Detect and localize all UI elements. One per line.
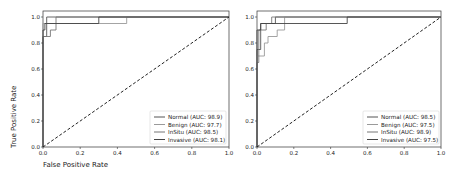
x-tick-label: 0.6 xyxy=(150,150,159,156)
roc-plot-left: 0.00.20.40.60.81.0 0.00.20.40.60.81.0 Fa… xyxy=(10,11,234,169)
legend-item: Invasive (AUC: 98.1) xyxy=(168,137,225,143)
x-axis-label: False Positive Rate xyxy=(43,161,108,169)
x-tick-label: 0.4 xyxy=(326,150,335,156)
x-tick-label: 1.0 xyxy=(437,150,446,156)
legend-item: Normal (AUC: 98.9) xyxy=(168,114,222,120)
y-tick-label: 1.0 xyxy=(245,14,254,20)
legend-item: Normal (AUC: 98.5) xyxy=(381,114,435,120)
x-tick-label: 0.0 xyxy=(39,150,48,156)
y-tick-label: 0.8 xyxy=(245,40,254,46)
y-axis-ticks: 0.00.20.40.60.81.0 xyxy=(31,14,43,150)
y-tick-label: 0.6 xyxy=(31,66,40,72)
legend-item: InSitu (AUC: 98.5) xyxy=(168,129,218,135)
x-tick-label: 0.0 xyxy=(253,150,262,156)
roc-plot-right: 0.00.20.40.60.81.0 0.00.20.40.60.81.0 No… xyxy=(245,11,446,156)
legend: Normal (AUC: 98.5) Benign (AUC: 97.5) In… xyxy=(363,111,439,144)
x-axis-ticks: 0.00.20.40.60.81.0 xyxy=(39,147,234,156)
y-tick-label: 0.6 xyxy=(245,66,254,72)
x-tick-label: 0.2 xyxy=(289,150,298,156)
y-tick-label: 0.2 xyxy=(245,118,254,124)
y-tick-label: 0.8 xyxy=(31,40,40,46)
x-tick-label: 1.0 xyxy=(225,150,234,156)
x-tick-label: 0.6 xyxy=(363,150,372,156)
legend-item: Benign (AUC: 97.7) xyxy=(168,122,222,129)
x-tick-label: 0.4 xyxy=(113,150,122,156)
y-tick-label: 0.2 xyxy=(31,118,40,124)
y-tick-label: 0.4 xyxy=(245,92,254,98)
legend-item: Benign (AUC: 97.5) xyxy=(381,122,435,129)
legend-item: InSitu (AUC: 98.9) xyxy=(381,129,431,135)
x-tick-label: 0.8 xyxy=(187,150,196,156)
y-axis-ticks: 0.00.20.40.60.81.0 xyxy=(245,14,257,150)
x-axis-ticks: 0.00.20.40.60.81.0 xyxy=(253,147,446,156)
roc-figure: 0.00.20.40.60.81.0 0.00.20.40.60.81.0 Fa… xyxy=(0,0,462,172)
y-tick-label: 1.0 xyxy=(31,14,40,20)
y-tick-label: 0.4 xyxy=(31,92,40,98)
legend: Normal (AUC: 98.9) Benign (AUC: 97.7) In… xyxy=(150,111,226,144)
x-tick-label: 0.8 xyxy=(400,150,409,156)
legend-item: Invasive (AUC: 97.5) xyxy=(381,137,438,143)
y-axis-label: True Positive Rate xyxy=(10,86,18,149)
x-tick-label: 0.2 xyxy=(76,150,85,156)
